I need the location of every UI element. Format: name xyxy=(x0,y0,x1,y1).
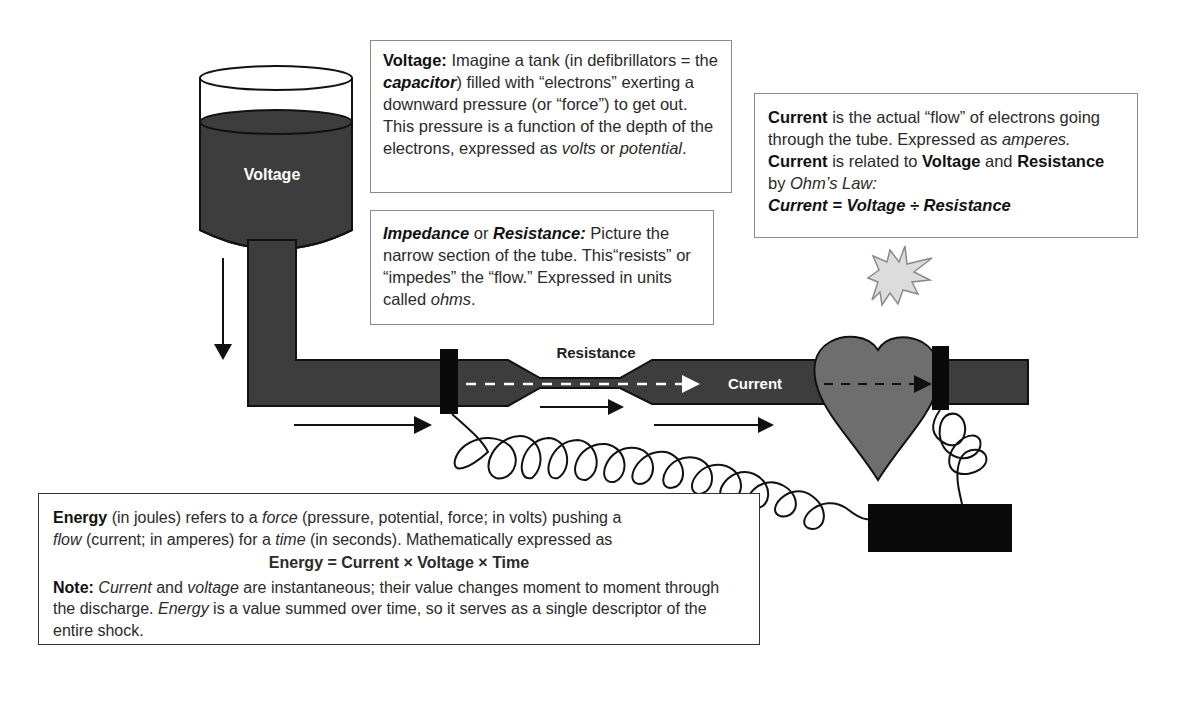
current-info-box: Current is the actual “flow” of electron… xyxy=(754,93,1138,238)
voltage-info-box: Voltage: Imagine a tank (in defibrillato… xyxy=(370,40,732,193)
down-arrow-icon xyxy=(214,258,232,360)
heart-icon xyxy=(814,337,939,480)
energy-text: (in joules) refers to a xyxy=(107,509,262,526)
energy-text: (pressure, potential, force; in volts) p… xyxy=(298,509,622,526)
current-label: Current xyxy=(728,375,782,392)
ohms-law-formula: Current = Voltage ÷ Resistance xyxy=(768,196,1011,214)
amperes-term: amperes. xyxy=(1002,130,1071,148)
resistance-term: Resistance: xyxy=(493,224,586,242)
note-text: and xyxy=(152,579,188,596)
note-current: Current xyxy=(98,579,151,596)
current-text: is related to xyxy=(828,152,922,170)
note-voltage: voltage xyxy=(187,579,239,596)
voltage-text: Imagine a tank (in defibrillators = the xyxy=(447,51,718,69)
voltage-text: or xyxy=(596,139,620,157)
resistance-term: Resistance xyxy=(1017,152,1104,170)
defibrillation-diagram: Voltage Resistance Current xyxy=(0,0,1182,710)
energy-text: (in seconds). Mathematically expressed a… xyxy=(306,531,613,548)
energy-note: Note: Current and voltage are instantane… xyxy=(53,577,745,642)
defibrillator-device xyxy=(868,504,1012,552)
energy-text: (current; in amperes) for a xyxy=(81,531,275,548)
tank-label: Voltage xyxy=(244,166,301,183)
spark-icon xyxy=(868,246,932,305)
impedance-text: . xyxy=(471,290,476,308)
voltage-tank: Voltage xyxy=(200,66,352,249)
potential-term: potential xyxy=(620,139,682,157)
energy-term: Energy xyxy=(53,509,107,526)
force-term: force xyxy=(262,509,298,526)
ohms-term: ohms xyxy=(431,290,471,308)
time-term: time xyxy=(275,531,305,548)
capacitor-term: capacitor xyxy=(383,73,456,91)
impedance-text: or xyxy=(469,224,493,242)
energy-formula: Energy = Current × Voltage × Time xyxy=(53,552,745,574)
voltage-term: Voltage xyxy=(922,152,980,170)
voltage-term: Voltage: xyxy=(383,51,447,69)
energy-definition: Energy (in joules) refers to a force (pr… xyxy=(53,507,745,550)
ohms-law-term: Ohm’s Law: xyxy=(790,174,877,192)
electrode-left xyxy=(440,349,458,414)
current-term: Current xyxy=(768,108,828,126)
resistance-label: Resistance xyxy=(556,344,635,361)
energy-info-box: Energy (in joules) refers to a force (pr… xyxy=(38,493,760,645)
current-text: and xyxy=(980,152,1017,170)
current-term: Current xyxy=(768,152,828,170)
flow-term: flow xyxy=(53,531,81,548)
coiled-cable-right xyxy=(933,410,986,504)
impedance-info-box: Impedance or Resistance: Picture the nar… xyxy=(370,210,714,325)
volts-term: volts xyxy=(562,139,596,157)
voltage-text: . xyxy=(682,139,687,157)
electrode-right xyxy=(932,346,949,410)
note-label: Note: xyxy=(53,579,94,596)
note-energy: Energy xyxy=(158,600,209,617)
impedance-term: Impedance xyxy=(383,224,469,242)
current-text: by xyxy=(768,174,790,192)
